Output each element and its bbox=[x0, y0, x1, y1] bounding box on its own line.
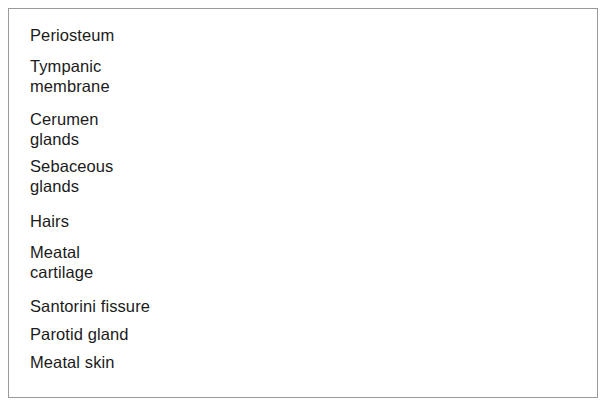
label-meatal-skin: Meatal skin bbox=[30, 353, 115, 372]
label-santorini: Santorini fissure bbox=[30, 297, 150, 316]
label-cerumen-line1: Cerumen bbox=[30, 110, 99, 129]
label-sebaceous-line1: Sebaceous bbox=[30, 157, 113, 176]
label-hairs: Hairs bbox=[30, 212, 69, 231]
label-cerumen-line2: glands bbox=[30, 130, 79, 149]
label-tympanic-line2: membrane bbox=[30, 77, 110, 96]
label-meatal-cart-l1: Meatal bbox=[30, 243, 80, 262]
label-sebaceous-line2: glands bbox=[30, 177, 79, 196]
label-periosteum: Periosteum bbox=[30, 26, 114, 45]
label-tympanic-line1: Tympanic bbox=[30, 57, 101, 76]
label-parotid: Parotid gland bbox=[30, 325, 129, 344]
anatomy-figure: Periosteum Tympanic membrane Cerumen gla… bbox=[0, 0, 606, 408]
label-meatal-cart-l2: cartilage bbox=[30, 263, 93, 282]
